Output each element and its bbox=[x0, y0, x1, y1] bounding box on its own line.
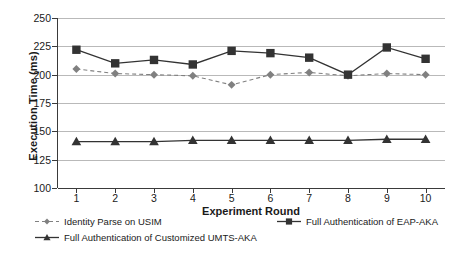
legend-label: Full Authentication of Customized UMTS-A… bbox=[64, 232, 257, 243]
series-line bbox=[76, 139, 425, 141]
diamond-marker bbox=[266, 71, 274, 79]
legend-marker-sample bbox=[276, 216, 302, 227]
series-line bbox=[76, 47, 425, 74]
legend-label: Full Authentication of EAP-AKA bbox=[306, 216, 438, 227]
diamond-marker bbox=[150, 71, 158, 79]
x-tick-label: 4 bbox=[178, 192, 208, 204]
chart-legend: Identity Parse on USIMFull Authenticatio… bbox=[26, 216, 456, 258]
x-tick-label: 7 bbox=[294, 192, 324, 204]
x-tick-label: 5 bbox=[217, 192, 247, 204]
diamond-marker bbox=[189, 72, 197, 80]
y-tick-label: 250 bbox=[17, 12, 51, 24]
square-marker bbox=[344, 70, 352, 78]
diamond-marker bbox=[72, 65, 80, 73]
square-marker bbox=[383, 43, 391, 51]
y-tick-label: 100 bbox=[17, 182, 51, 194]
square-marker bbox=[150, 56, 158, 64]
x-tick-label: 3 bbox=[139, 192, 169, 204]
square-marker bbox=[111, 59, 119, 67]
y-tick-label: 225 bbox=[17, 40, 51, 52]
y-tick-label: 200 bbox=[17, 69, 51, 81]
x-tick-label: 9 bbox=[372, 192, 402, 204]
square-marker bbox=[227, 47, 235, 55]
x-tick-label: 6 bbox=[255, 192, 285, 204]
x-tick-label: 1 bbox=[61, 192, 91, 204]
legend-marker-sample bbox=[34, 232, 60, 243]
diamond-marker bbox=[228, 81, 236, 89]
square-marker bbox=[286, 218, 292, 224]
legend-item: Full Authentication of Customized UMTS-A… bbox=[34, 232, 257, 243]
diamond-marker bbox=[305, 68, 313, 76]
legend-item: Full Authentication of EAP-AKA bbox=[276, 216, 438, 227]
legend-item: Identity Parse on USIM bbox=[34, 216, 162, 227]
diamond-marker bbox=[383, 70, 391, 78]
square-marker bbox=[189, 60, 197, 68]
execution-time-line-chart: Execution Time (ms) 25022520017515012510… bbox=[0, 0, 472, 263]
series-0 bbox=[72, 65, 429, 89]
diamond-marker bbox=[422, 71, 430, 79]
x-tick-label: 2 bbox=[100, 192, 130, 204]
square-marker bbox=[72, 46, 80, 54]
y-tick-label: 125 bbox=[17, 154, 51, 166]
x-tick-label: 10 bbox=[411, 192, 441, 204]
y-tick-label: 175 bbox=[17, 97, 51, 109]
legend-marker-sample bbox=[34, 216, 60, 227]
legend-label: Identity Parse on USIM bbox=[64, 216, 162, 227]
series-line bbox=[76, 69, 425, 85]
square-marker bbox=[421, 55, 429, 63]
y-tick-label: 150 bbox=[17, 125, 51, 137]
diamond-marker bbox=[111, 70, 119, 78]
x-tick-label: 8 bbox=[333, 192, 363, 204]
series-layer bbox=[57, 18, 445, 188]
square-marker bbox=[305, 53, 313, 61]
square-marker bbox=[266, 49, 274, 57]
series-2 bbox=[72, 134, 431, 145]
y-tick-mark bbox=[52, 188, 57, 189]
diamond-marker bbox=[44, 219, 50, 225]
